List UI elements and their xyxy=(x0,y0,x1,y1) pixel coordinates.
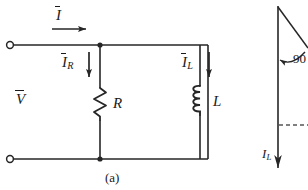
label-resistor-current: IR xyxy=(62,55,73,71)
label-inductor-current: IL xyxy=(182,55,193,71)
label-phasor-inductor-current-subscript: L xyxy=(267,152,272,162)
figure-caption-a: (a) xyxy=(105,170,119,186)
label-resistor-current-text: I xyxy=(62,55,67,70)
label-phasor-inductor-current-text: I xyxy=(262,146,266,161)
label-source-voltage-text: V xyxy=(16,92,25,107)
terminal-bottom xyxy=(7,156,14,163)
label-resistor-current-subscript: R xyxy=(67,60,73,71)
label-inductor-current-text: I xyxy=(182,55,187,70)
label-inductor: L xyxy=(213,94,221,109)
terminal-top xyxy=(7,42,14,49)
label-resistor: R xyxy=(113,96,122,111)
label-source-voltage: V xyxy=(16,92,25,107)
inductor-symbol xyxy=(193,86,200,115)
phasor-diagonal xyxy=(278,7,308,48)
label-inductor-current-subscript: L xyxy=(187,60,193,71)
figure-canvas: V I IR IL R L (a) 90 IL xyxy=(0,0,308,190)
label-phasor-angle: 90 xyxy=(293,52,306,65)
label-total-current-text: I xyxy=(56,8,61,23)
label-total-current: I xyxy=(56,8,61,23)
label-phasor-inductor-current: IL xyxy=(262,147,271,162)
resistor-symbol xyxy=(94,88,106,120)
